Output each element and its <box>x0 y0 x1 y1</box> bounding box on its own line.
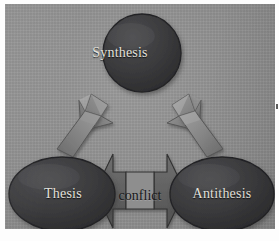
dialectic-diagram: Synthesis Thesis Antithesis conflict <box>0 0 279 241</box>
node-synthesis[interactable] <box>103 14 181 92</box>
connector-thesis-shaft <box>57 111 101 157</box>
connector-antithesis-shaft <box>179 111 223 157</box>
scan-speck <box>276 104 278 109</box>
node-thesis[interactable] <box>9 157 115 229</box>
diagram-canvas <box>5 4 275 229</box>
slide-panel: Synthesis Thesis Antithesis conflict <box>5 4 275 229</box>
node-antithesis[interactable] <box>170 157 274 229</box>
